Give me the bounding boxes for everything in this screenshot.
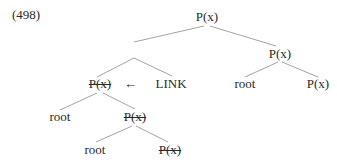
node-mid-struck-p: P(x) — [124, 110, 146, 124]
node-bottom-root: root — [85, 143, 106, 157]
arrow-left-icon: ← — [124, 77, 137, 91]
edge-root-left — [134, 26, 204, 42]
edge-right-root — [245, 62, 278, 77]
example-number: (498) — [12, 8, 40, 22]
edge-left-apex-right — [134, 58, 172, 76]
edge-lp-root — [60, 93, 97, 110]
node-right-p: P(x) — [269, 47, 291, 61]
node-right-root: root — [235, 77, 256, 91]
node-root: P(x) — [196, 10, 218, 24]
node-left-struck-p: P(x) — [89, 77, 111, 91]
node-bottom-struck-p: P(x) — [159, 143, 181, 157]
edge-mid-p — [136, 126, 168, 142]
edge-right-p — [282, 62, 318, 77]
edge-root-right — [210, 26, 276, 46]
edge-mid-root — [96, 126, 132, 142]
node-right-p-leaf: P(x) — [307, 77, 329, 91]
node-link: LINK — [155, 77, 186, 91]
edge-lp-mid — [103, 93, 135, 109]
node-left-root: root — [50, 110, 71, 124]
edge-left-apex-left — [97, 58, 134, 77]
